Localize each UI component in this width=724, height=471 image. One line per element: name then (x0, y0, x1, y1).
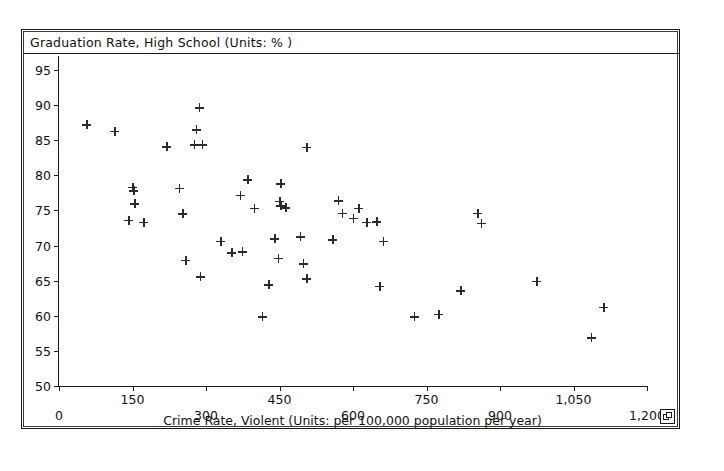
chart-window-root: Graduation Rate, High School (Units: % )… (0, 0, 724, 471)
data-point-marker (275, 197, 284, 206)
data-point-marker (410, 312, 419, 321)
data-point-marker (375, 282, 384, 291)
data-point-marker (270, 234, 279, 243)
data-point-marker (362, 218, 371, 227)
data-point-marker (477, 219, 486, 228)
plot-area[interactable]: 5055606570758085909501503004506007509001… (58, 56, 647, 387)
data-point-marker (124, 216, 133, 225)
data-point-marker (195, 103, 204, 112)
x-axis-tick (647, 386, 648, 391)
data-point-marker (129, 186, 138, 195)
data-point-marker (532, 277, 541, 286)
data-point-marker (162, 142, 171, 151)
data-point-marker (274, 254, 283, 263)
data-point-marker (181, 256, 190, 265)
y-axis-tick-label: 55 (35, 343, 51, 358)
data-point-marker (276, 201, 285, 210)
data-point-marker (258, 312, 267, 321)
y-axis-tick-label: 80 (35, 168, 51, 183)
data-point-marker (473, 209, 482, 218)
data-point-marker (328, 235, 337, 244)
y-axis-tick-label: 95 (35, 63, 51, 78)
data-point-marker (243, 175, 252, 184)
x-axis-tick-label: 750 (415, 392, 439, 407)
y-axis-tick (54, 246, 59, 247)
data-point-marker (139, 218, 148, 227)
y-axis-tick-label: 65 (35, 273, 51, 288)
resize-handle-icon[interactable] (660, 409, 675, 424)
data-point-marker (130, 199, 139, 208)
data-point-marker (276, 179, 285, 188)
data-point-marker (434, 310, 443, 319)
data-point-marker (190, 140, 199, 149)
x-axis-tick (206, 386, 207, 391)
x-axis-tick-label: 150 (121, 392, 145, 407)
y-axis-tick (54, 351, 59, 352)
data-point-marker (281, 203, 290, 212)
y-axis-tick (54, 70, 59, 71)
data-point-marker (238, 247, 247, 256)
data-point-marker (175, 184, 184, 193)
data-point-marker (250, 204, 259, 213)
x-axis-tick-label: 450 (268, 392, 292, 407)
data-point-marker (456, 286, 465, 295)
data-point-marker (110, 127, 119, 136)
data-point-marker (216, 237, 225, 246)
x-axis-tick-label: 1,050 (556, 392, 592, 407)
data-point-marker (227, 248, 236, 257)
y-axis-tick-label: 70 (35, 238, 51, 253)
data-point-marker (128, 183, 137, 192)
data-point-marker (299, 259, 308, 268)
chart-title: Graduation Rate, High School (Units: % ) (30, 35, 292, 50)
y-axis-tick-label: 90 (35, 98, 51, 113)
y-axis-tick (54, 140, 59, 141)
data-point-marker (379, 237, 388, 246)
x-axis-tick (427, 386, 428, 391)
data-point-marker (302, 143, 311, 152)
y-axis-tick (54, 105, 59, 106)
y-axis-tick (54, 175, 59, 176)
y-axis-tick-label: 50 (35, 379, 51, 394)
x-axis-tick (133, 386, 134, 391)
data-point-marker (334, 196, 343, 205)
y-axis-tick-label: 75 (35, 203, 51, 218)
x-axis-tick (280, 386, 281, 391)
data-point-marker (198, 140, 207, 149)
data-point-marker (354, 204, 363, 213)
data-point-marker (587, 333, 596, 342)
data-point-marker (264, 280, 273, 289)
resize-handle-square-front (666, 412, 672, 418)
data-point-marker (192, 125, 201, 134)
y-axis-tick (54, 281, 59, 282)
data-point-marker (338, 209, 347, 218)
data-point-marker (372, 217, 381, 226)
y-axis-tick-label: 85 (35, 133, 51, 148)
data-point-marker (349, 214, 358, 223)
data-point-marker (236, 191, 245, 200)
plot-window: Graduation Rate, High School (Units: % )… (21, 29, 680, 429)
y-axis-tick (54, 316, 59, 317)
y-axis-tick (54, 210, 59, 211)
data-point-marker (296, 232, 305, 241)
data-point-marker (82, 120, 91, 129)
x-axis-tick (353, 386, 354, 391)
data-point-marker (302, 274, 311, 283)
x-axis-tick (59, 386, 60, 391)
data-point-marker (196, 272, 205, 281)
chart-titlebar: Graduation Rate, High School (Units: % ) (24, 32, 679, 54)
x-axis-tick (500, 386, 501, 391)
x-axis-caption: Crime Rate, Violent (Units: per 100,000 … (58, 413, 647, 428)
data-point-marker (599, 303, 608, 312)
x-axis-tick (574, 386, 575, 391)
y-axis-tick-label: 60 (35, 308, 51, 323)
data-point-marker (178, 209, 187, 218)
